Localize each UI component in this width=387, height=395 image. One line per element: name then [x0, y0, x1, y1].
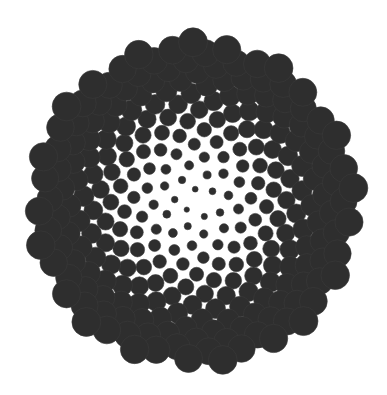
seed-dot	[144, 163, 156, 175]
seed-dot	[252, 177, 265, 190]
seed-dot	[237, 160, 249, 172]
seed-dot	[249, 213, 262, 226]
seed-dot	[200, 230, 208, 238]
seed-dot	[79, 70, 107, 98]
seed-dot	[210, 136, 223, 149]
seed-dot	[178, 176, 185, 183]
seed-dot	[177, 258, 190, 271]
seed-dot	[209, 188, 216, 195]
seed-dot	[113, 179, 128, 194]
seed-dot	[29, 143, 57, 171]
seed-dot	[136, 211, 147, 222]
seed-dot	[175, 344, 203, 372]
seed-dot	[201, 213, 207, 219]
seed-dot	[339, 174, 368, 203]
seed-dot	[125, 40, 154, 69]
seed-dot	[263, 240, 280, 257]
seed-dot	[197, 122, 211, 136]
seed-dot	[218, 151, 229, 162]
seed-dot	[136, 145, 150, 159]
seed-dot	[185, 161, 194, 170]
seed-dot	[25, 197, 53, 225]
seed-dot	[213, 239, 224, 250]
seed-dot	[130, 226, 143, 239]
seed-dot	[104, 164, 121, 181]
seed-dot	[155, 125, 170, 140]
seed-dot	[136, 259, 152, 275]
seed-dot	[149, 240, 161, 252]
seed-dot	[192, 186, 198, 192]
seed-dot	[184, 223, 191, 230]
seed-dot	[198, 252, 210, 264]
seed-dot	[219, 169, 229, 179]
seed-dot	[130, 243, 144, 257]
seed-dot	[213, 36, 241, 64]
seed-dot	[161, 164, 171, 174]
seed-dot	[119, 259, 136, 276]
seed-dot	[258, 226, 273, 241]
seed-dot	[216, 209, 224, 217]
seed-dot	[233, 204, 243, 214]
seed-dot	[163, 268, 178, 283]
seed-dot	[244, 236, 258, 250]
seed-dot	[208, 346, 237, 375]
seed-dot	[130, 277, 149, 296]
seed-dot	[154, 144, 167, 157]
seed-dot	[168, 229, 177, 238]
seed-dot	[228, 241, 240, 253]
seed-dot	[277, 224, 295, 242]
seed-dot	[209, 111, 225, 127]
seed-dot	[151, 224, 161, 234]
seed-dot	[171, 196, 178, 203]
spiral-dots	[0, 0, 387, 395]
seed-dot	[120, 335, 148, 363]
seed-dot	[116, 134, 133, 151]
seed-dot	[212, 257, 225, 270]
seed-dot	[203, 171, 211, 179]
phyllotaxis-canvas	[0, 0, 387, 395]
seed-dot	[173, 129, 187, 143]
seed-dot	[246, 251, 262, 267]
seed-dot	[119, 152, 134, 167]
seed-dot	[26, 231, 55, 260]
seed-dot	[190, 267, 204, 281]
seed-dot	[149, 200, 158, 209]
seed-dot	[289, 307, 318, 336]
seed-dot	[188, 138, 200, 150]
seed-dot	[335, 208, 363, 236]
seed-dot	[184, 207, 189, 212]
seed-dot	[224, 191, 233, 200]
seed-dot	[259, 324, 287, 352]
seed-dot	[224, 126, 239, 141]
seed-dot	[187, 241, 197, 251]
seed-dot	[52, 92, 81, 121]
seed-dot	[113, 240, 129, 256]
seed-dot	[179, 28, 208, 57]
seed-dot	[233, 142, 247, 156]
seed-dot	[245, 192, 257, 204]
seed-dot	[199, 152, 209, 162]
seed-dot	[118, 205, 132, 219]
seed-dot	[321, 261, 350, 290]
seed-dot	[169, 245, 180, 256]
seed-dot	[238, 121, 255, 138]
seed-dot	[113, 222, 128, 237]
seed-dot	[163, 210, 171, 218]
seed-dot	[264, 54, 293, 83]
seed-dot	[234, 177, 245, 188]
seed-dot	[235, 222, 246, 233]
seed-dot	[322, 121, 350, 149]
seed-dot	[219, 224, 228, 233]
seed-dot	[127, 168, 140, 181]
seed-dot	[253, 158, 268, 173]
seed-dot	[128, 191, 140, 203]
seed-dot	[229, 257, 244, 272]
seed-dot	[259, 200, 273, 214]
seed-dot	[289, 78, 317, 106]
seed-dot	[72, 308, 101, 337]
seed-dot	[171, 149, 182, 160]
seed-dot	[263, 256, 282, 275]
seed-dot	[153, 255, 167, 269]
seed-dot	[223, 104, 241, 122]
seed-dot	[206, 272, 221, 287]
